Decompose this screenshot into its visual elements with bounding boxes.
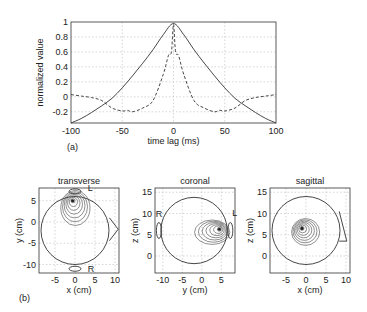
y-axis-label: z (cm) xyxy=(245,218,255,243)
figure: -100-50050100-0.200.20.40.60.81time lag … xyxy=(0,0,367,312)
annotation-R: R xyxy=(156,209,163,219)
subplot-title: sagittal xyxy=(296,176,325,186)
annotation-L: L xyxy=(232,208,237,218)
y-axis-label: y (cm) xyxy=(14,218,24,243)
panel-label-b: (b) xyxy=(19,293,30,303)
x-tick-label: 100 xyxy=(268,126,283,136)
subplot-title: transverse xyxy=(58,176,100,186)
x-tick-label: 0 xyxy=(303,275,308,285)
x-tick-label: 5 xyxy=(92,275,97,285)
y-tick-label: 15 xyxy=(257,187,267,197)
x-tick-label: -5 xyxy=(51,275,59,285)
y-tick-label: 10 xyxy=(257,209,267,219)
y-tick-label: -5 xyxy=(28,238,36,248)
y-tick-label: -0.2 xyxy=(52,107,68,117)
y-tick-label: 1 xyxy=(63,17,68,27)
x-axis-label: y (cm) xyxy=(183,285,208,295)
x-tick-label: 10 xyxy=(110,275,120,285)
x-tick-label: -100 xyxy=(62,126,80,136)
x-tick-label: 0 xyxy=(199,275,204,285)
chart-coronal: -10-505051015coronaly (cm)z (cm)RL xyxy=(130,176,237,295)
annotation-L: L xyxy=(88,183,93,193)
y-tick-label: 0.6 xyxy=(55,47,68,57)
y-axis-label: normalized value xyxy=(35,38,45,106)
panel-label-a: (a) xyxy=(67,142,78,152)
x-axis-label: x (cm) xyxy=(67,285,92,295)
y-tick-label: 5 xyxy=(147,230,152,240)
nose-marker xyxy=(109,218,118,241)
y-tick-label: -10 xyxy=(23,260,36,270)
x-tick-label: 5 xyxy=(219,275,224,285)
series-solid xyxy=(71,23,276,123)
y-tick-label: 0.2 xyxy=(55,77,68,87)
subplot-title: coronal xyxy=(180,176,210,186)
x-axis-label: time lag (ms) xyxy=(147,136,199,146)
y-tick-label: 0 xyxy=(31,217,36,227)
x-tick-label: 0 xyxy=(171,126,176,136)
y-tick-label: 0.8 xyxy=(55,32,68,42)
y-tick-label: 5 xyxy=(262,230,267,240)
plot-frame xyxy=(270,188,350,273)
y-tick-label: 0 xyxy=(63,92,68,102)
y-tick-label: 10 xyxy=(142,209,152,219)
y-tick-label: 5 xyxy=(31,196,36,206)
y-tick-label: 15 xyxy=(142,187,152,197)
x-tick-label: -5 xyxy=(282,275,290,285)
x-tick-label: 5 xyxy=(323,275,328,285)
x-tick-label: -5 xyxy=(178,275,186,285)
x-tick-label: 10 xyxy=(341,275,351,285)
x-tick-label: -50 xyxy=(116,126,129,136)
y-tick-label: 0 xyxy=(147,251,152,261)
chart-transverse: -50510-10-505transversex (cm)y (cm)LR(b) xyxy=(14,176,120,303)
y-axis-label: z (cm) xyxy=(130,218,140,243)
head-outline xyxy=(161,197,227,263)
nose-marker xyxy=(339,211,347,241)
x-tick-label: 0 xyxy=(72,275,77,285)
annotation-R: R xyxy=(88,264,95,274)
x-tick-label: -10 xyxy=(156,275,169,285)
chart-sagittal: -50510051015sagittalx (cm)z (cm) xyxy=(245,176,351,295)
x-axis-label: x (cm) xyxy=(298,285,323,295)
x-tick-label: 50 xyxy=(220,126,230,136)
y-tick-label: 0.4 xyxy=(55,62,68,72)
y-tick-label: 0 xyxy=(262,251,267,261)
chart-a: -100-50050100-0.200.20.40.60.81time lag … xyxy=(35,17,284,152)
